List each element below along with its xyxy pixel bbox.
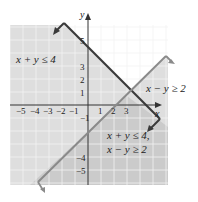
x-tick: 2 [111,106,116,116]
region-label-overlap-line1: x + y ≤ 4, [106,129,150,141]
x-tick: −3 [43,106,53,116]
region-label-x-minus-y-ge-2: x − y ≥ 2 [145,82,186,94]
inequality-graph: y x −5 −4 −3 −2 −1 1 2 3 5 3 2 1 −1 −4 −… [0,0,198,202]
region-label-x-plus-y-le-4: x + y ≤ 4 [15,53,56,65]
y-tick: −5 [76,166,86,176]
x-tick: −1 [69,106,79,116]
x-tick: −2 [56,106,66,116]
y-tick: −4 [76,153,86,163]
y-tick: 1 [80,88,85,98]
region-label-overlap-line2: x − y ≥ 2 [106,143,147,155]
y-axis-label: y [79,9,85,20]
y-axis-arrow-icon [85,13,91,20]
x-tick: −5 [16,106,26,116]
y-tick: 5 [80,36,85,46]
x-axis-label: x [154,108,160,119]
x-tick-labels: −5 −4 −3 −2 −1 1 2 3 [16,106,129,116]
y-tick: −1 [80,113,90,123]
x-tick: −4 [30,106,40,116]
y-tick: 3 [80,62,85,72]
x-tick: 1 [98,106,103,116]
x-tick: 3 [124,106,129,116]
y-tick: 2 [80,75,85,85]
